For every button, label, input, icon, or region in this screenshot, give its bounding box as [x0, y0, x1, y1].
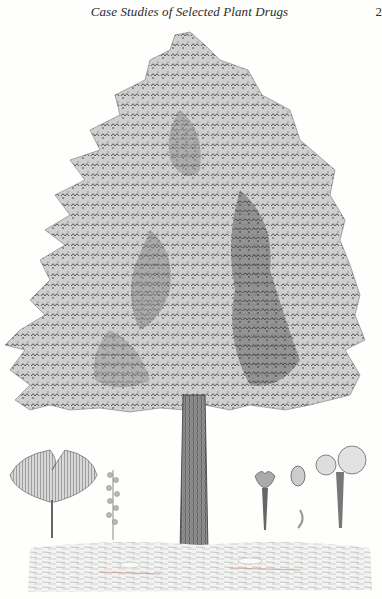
- tree-canopy: [5, 32, 365, 412]
- ovule-stalk-specimen: [255, 471, 275, 530]
- ground-hatching: [28, 542, 372, 592]
- canopy-silhouette: [5, 32, 365, 412]
- seed-kernel-specimen: [298, 510, 303, 528]
- male-catkin-specimen: [107, 470, 120, 540]
- paired-fruits-specimen: [316, 446, 366, 528]
- ginkgo-leaf-specimen: [10, 450, 97, 538]
- seed-specimen: [291, 466, 305, 528]
- tree-trunk: [180, 395, 208, 552]
